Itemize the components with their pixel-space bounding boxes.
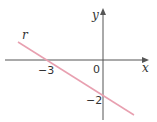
x-axis-label: x — [142, 61, 149, 75]
y-intercept-label: −2 — [86, 94, 102, 107]
origin-label: 0 — [93, 63, 100, 76]
line-r — [18, 42, 134, 115]
x-intercept-label: −3 — [38, 64, 54, 77]
coordinate-diagram: r x y 0 −3 −2 — [0, 0, 157, 122]
y-axis-label: y — [91, 8, 99, 22]
line-label: r — [22, 28, 29, 42]
y-axis-arrow-icon — [100, 8, 106, 15]
